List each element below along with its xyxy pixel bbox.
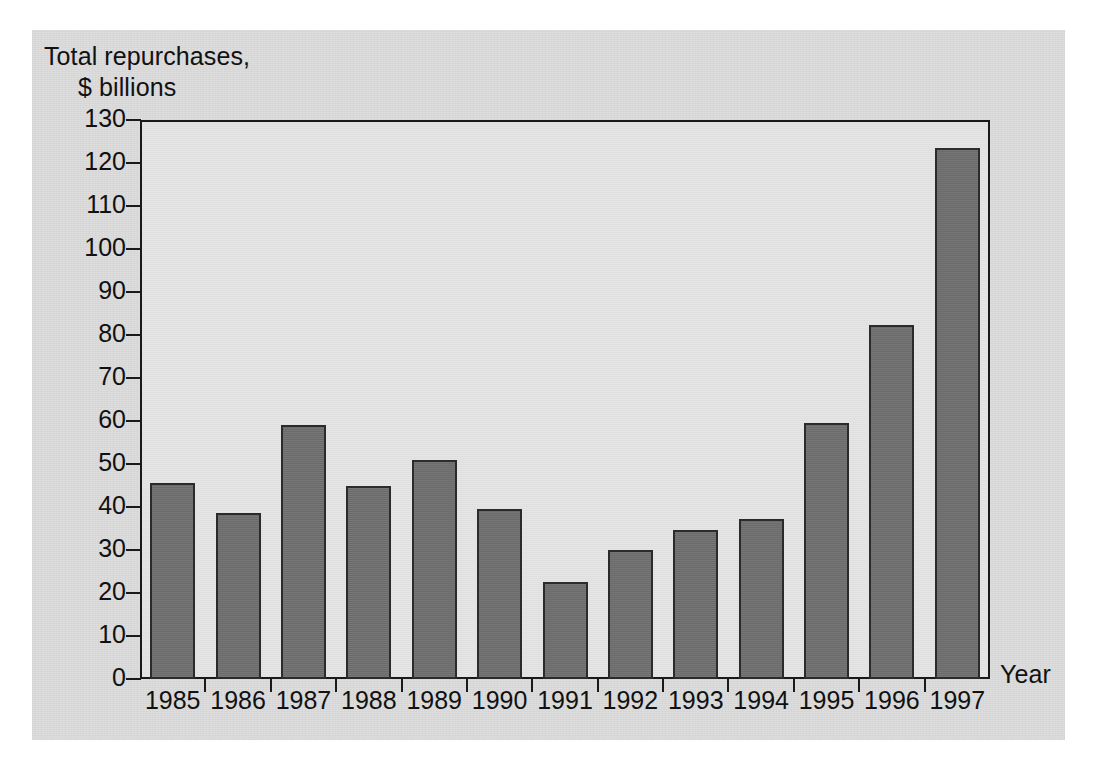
bar-1985 xyxy=(150,483,195,679)
bar-1989 xyxy=(412,460,457,679)
y-axis-tick xyxy=(126,205,141,207)
bar-1990 xyxy=(477,509,522,679)
y-axis-tick xyxy=(126,549,141,551)
y-axis-tick-label: 40 xyxy=(66,491,126,520)
bar-chart: Total repurchases, $ billions Year 01020… xyxy=(0,0,1096,768)
x-axis-tick-label: 1995 xyxy=(794,686,859,715)
x-axis-tick-label: 1990 xyxy=(467,686,532,715)
y-axis-tick-label: 120 xyxy=(66,147,126,176)
bar-1992 xyxy=(608,550,653,679)
bar-1995 xyxy=(804,423,849,679)
y-axis-tick-label: 60 xyxy=(66,405,126,434)
y-axis-tick-label: 100 xyxy=(66,233,126,262)
y-axis-tick-label: 10 xyxy=(66,620,126,649)
y-axis-tick-label: 20 xyxy=(66,577,126,606)
x-axis-tick-label: 1993 xyxy=(663,686,728,715)
y-axis-tick xyxy=(126,334,141,336)
bar-1994 xyxy=(739,519,784,679)
y-axis-tick xyxy=(126,248,141,250)
y-axis-tick xyxy=(126,420,141,422)
y-axis-tick xyxy=(126,678,141,680)
y-axis-tick-label: 80 xyxy=(66,319,126,348)
y-axis-tick-label: 90 xyxy=(66,276,126,305)
y-axis-tick xyxy=(126,119,141,121)
y-axis-tick xyxy=(126,291,141,293)
x-axis-tick-label: 1988 xyxy=(336,686,401,715)
bar-1993 xyxy=(673,530,718,679)
y-axis-tick xyxy=(126,463,141,465)
y-axis-tick-label: 130 xyxy=(66,104,126,133)
y-axis-tick-label: 70 xyxy=(66,362,126,391)
x-axis-tick-label: 1992 xyxy=(598,686,663,715)
x-axis-tick-label: 1996 xyxy=(859,686,924,715)
y-axis-title-line-1: Total repurchases, xyxy=(44,42,250,71)
y-axis-tick xyxy=(126,377,141,379)
x-axis-tick-label: 1997 xyxy=(925,686,990,715)
bar-1988 xyxy=(346,486,391,680)
y-axis-tick-label: 110 xyxy=(66,190,126,219)
bar-1987 xyxy=(281,425,326,679)
x-axis-title: Year xyxy=(1000,660,1051,689)
bar-1986 xyxy=(216,513,261,679)
y-axis-tick-label: 50 xyxy=(66,448,126,477)
y-axis-tick xyxy=(126,635,141,637)
x-axis-tick-label: 1991 xyxy=(532,686,597,715)
y-axis-tick xyxy=(126,162,141,164)
x-axis-tick-label: 1989 xyxy=(402,686,467,715)
x-axis-tick-label: 1985 xyxy=(140,686,205,715)
y-axis-title-line-2: $ billions xyxy=(78,73,176,102)
y-axis-tick xyxy=(126,506,141,508)
y-axis-tick-label: 0 xyxy=(66,663,126,692)
bar-1997 xyxy=(935,148,980,679)
x-axis-tick-label: 1986 xyxy=(205,686,270,715)
y-axis-tick xyxy=(126,592,141,594)
bar-1996 xyxy=(869,325,914,679)
x-axis-tick-label: 1987 xyxy=(271,686,336,715)
bar-1991 xyxy=(543,582,588,679)
x-axis-tick-label: 1994 xyxy=(728,686,793,715)
y-axis-tick-label: 30 xyxy=(66,534,126,563)
